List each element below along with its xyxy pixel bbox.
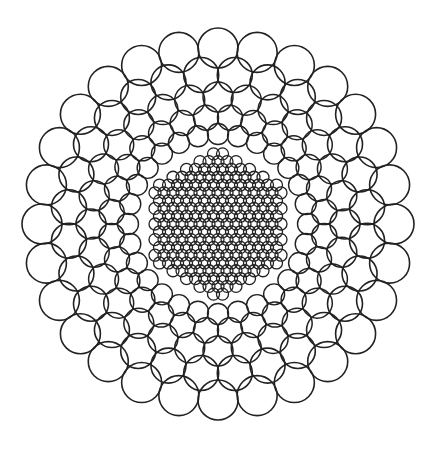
ring-circle: [374, 204, 414, 244]
ring-circle: [159, 32, 199, 72]
ring-circle: [120, 234, 141, 255]
ring-circle: [330, 209, 360, 239]
ring-circle: [370, 165, 410, 205]
ring-circle: [26, 243, 66, 283]
ring-circle: [105, 247, 130, 272]
ring-circle: [217, 356, 252, 391]
ring-circle: [370, 243, 410, 283]
ring-circle: [159, 376, 199, 416]
ring-circle: [51, 223, 86, 258]
ring-circle: [170, 111, 195, 136]
ring-circle: [187, 301, 208, 322]
ring-circle: [203, 336, 233, 366]
ring-circle: [228, 126, 249, 147]
ring-circle: [208, 124, 229, 145]
ring-circle: [22, 204, 62, 244]
ring-circle: [208, 304, 229, 325]
ring-circle: [237, 32, 277, 72]
outer-circle-rings: [22, 28, 414, 420]
ring-circle: [51, 190, 86, 225]
ring-circle: [118, 214, 139, 235]
circle-pattern-figure: [0, 0, 427, 449]
ring-circle: [184, 356, 219, 391]
ring-circle: [307, 176, 332, 201]
ring-circle: [350, 223, 385, 258]
ring-circle: [26, 165, 66, 205]
ring-circle: [203, 82, 233, 112]
ring-circle: [76, 209, 106, 239]
ring-circle: [198, 28, 238, 68]
ring-circle: [120, 193, 141, 214]
ring-circle: [217, 57, 252, 92]
ring-circle: [295, 193, 316, 214]
ring-circle: [198, 380, 238, 420]
ring-circle: [350, 190, 385, 225]
ring-circle: [298, 214, 319, 235]
hexagonal-core-lattice: [149, 148, 287, 300]
ring-circle: [295, 234, 316, 255]
circle-packing-diagram: [0, 0, 427, 449]
ring-circle: [184, 57, 219, 92]
ring-circle: [187, 126, 208, 147]
ring-circle: [237, 376, 277, 416]
ring-circle: [228, 301, 249, 322]
ring-circle: [241, 313, 266, 338]
